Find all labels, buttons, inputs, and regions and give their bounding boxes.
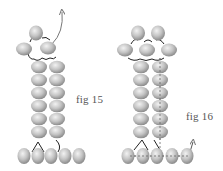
- fig-15-diagram: [16, 12, 86, 164]
- fig-16-top-cluster: [117, 26, 177, 57]
- fig-15-exit-arrow: [52, 12, 62, 44]
- fig-16-label: fig 16: [186, 110, 213, 122]
- beading-diagram: [0, 0, 223, 171]
- fig-15-top-cluster: [16, 26, 56, 56]
- fig-16-base-row: [122, 148, 194, 164]
- fig-16-diagram: [117, 26, 194, 165]
- fig-15-left-column: [31, 61, 47, 139]
- fig-15-base-row: [18, 148, 86, 164]
- fig-15-right-column: [49, 61, 65, 139]
- fig-15-label: fig 15: [76, 93, 103, 105]
- fig-16-right-column: [152, 58, 168, 140]
- fig-16-left-column: [133, 61, 149, 139]
